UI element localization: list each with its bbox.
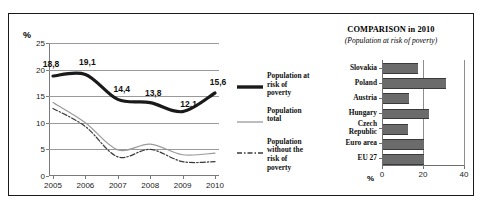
legend-label: Population at risk of poverty (267, 72, 313, 98)
x-tick-mark (382, 166, 383, 169)
data-label: 12,1 (180, 99, 197, 109)
bar-category-label: Poland (355, 79, 377, 87)
y-tick-label: 25 (36, 39, 45, 48)
y-tick-label: 10 (36, 118, 45, 127)
y-tick-mark (379, 158, 382, 159)
legend-swatch-icon (237, 78, 263, 88)
figure-frame: % 0510152025 200520062007200820092010 18… (8, 13, 474, 196)
bar-category-label: CzechRepublic (349, 120, 377, 136)
bar-category-label: Hungary (349, 109, 377, 117)
x-tick-mark (183, 176, 184, 179)
line-chart-unit-label: % (23, 30, 31, 40)
bar-chart-title: COMPARISON in 2010 (309, 25, 473, 34)
x-tick-label: 2008 (141, 181, 159, 190)
y-tick-label: 5 (41, 145, 45, 154)
gridline (464, 60, 465, 166)
y-tick-label: 0 (41, 172, 45, 181)
bar-chart-subtitle: (Population at risk of poverty) (309, 36, 473, 45)
x-tick-label: 2010 (206, 181, 224, 190)
line-chart-legend: Population at risk of povertyPopulation … (237, 72, 313, 181)
bar (383, 154, 424, 165)
y-tick-mark (379, 128, 382, 129)
bar-chart-panel: COMPARISON in 2010 (Population at risk o… (309, 14, 473, 197)
data-label: 15,6 (210, 77, 227, 87)
bar (383, 124, 408, 135)
y-tick-mark (379, 113, 382, 114)
x-tick-label: 2009 (174, 181, 192, 190)
legend-item: Population at risk of poverty (237, 72, 313, 98)
line-chart-plot-area: 0510152025 200520062007200820092010 18,8… (49, 43, 219, 176)
legend-swatch-icon (237, 144, 263, 154)
line-chart-series (49, 43, 219, 176)
bar-category-label: Slovakia (350, 64, 377, 72)
legend-swatch-icon (237, 113, 263, 123)
x-tick-mark (150, 176, 151, 179)
bar-category-label: Austria (353, 94, 377, 102)
x-tick-label: 20 (419, 170, 428, 179)
x-tick-label: 0 (380, 170, 384, 179)
bar-category-label: EU 27 (357, 154, 377, 162)
series-line (53, 108, 215, 162)
legend-label: Population without the risk of poverty (267, 138, 313, 172)
x-tick-label: 2006 (76, 181, 94, 190)
y-tick-mark (379, 68, 382, 69)
x-tick-label: 40 (460, 170, 469, 179)
y-tick-mark (379, 98, 382, 99)
x-tick-mark (53, 176, 54, 179)
data-label: 18,8 (43, 59, 60, 69)
x-tick-mark (215, 176, 216, 179)
data-label: 14,4 (114, 84, 131, 94)
bar-chart-plot-area: SlovakiaPolandAustriaHungaryCzechRepubli… (382, 60, 464, 166)
x-tick-label: 2007 (109, 181, 127, 190)
bar (383, 78, 446, 89)
x-tick-mark (85, 176, 86, 179)
y-tick-mark (46, 176, 49, 177)
y-tick-mark (379, 143, 382, 144)
data-label: 19,1 (79, 57, 96, 67)
y-tick-label: 15 (36, 92, 45, 101)
bar (383, 139, 424, 150)
y-tick-mark (379, 83, 382, 84)
bar (383, 63, 418, 74)
x-tick-mark (464, 166, 465, 169)
legend-item: Population without the risk of poverty (237, 138, 313, 172)
legend-label: Population total (267, 107, 313, 124)
legend-item: Population total (237, 107, 313, 129)
x-tick-mark (118, 176, 119, 179)
bar-category-label: Euro area (345, 139, 377, 147)
data-label: 13,8 (145, 88, 162, 98)
bar-chart-unit-label: % (367, 174, 374, 183)
x-tick-label: 2005 (44, 181, 62, 190)
bar (383, 93, 409, 104)
x-tick-mark (423, 166, 424, 169)
bar (383, 109, 429, 120)
